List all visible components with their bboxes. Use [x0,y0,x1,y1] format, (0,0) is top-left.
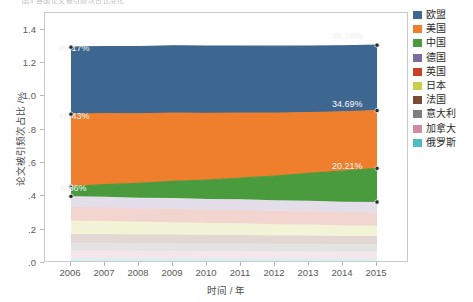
y-axis-tick-label: .2 [28,223,36,234]
legend-item-label: 法国 [426,95,446,105]
x-axis-tick-label: 2009 [161,267,182,278]
area-band-加拿大 [71,250,377,258]
x-axis-tick-label: 2006 [59,267,80,278]
data-point-marker [375,108,379,112]
x-axis-tick-label: 2012 [263,267,284,278]
plot-area: 40.17%39.18%43.43%34.69%5.86%20.21% [44,12,408,262]
legend-item-label: 俄罗斯 [426,138,456,148]
legend-swatch-icon [413,11,422,19]
y-axis-tick-label: .8 [28,123,36,134]
legend-item-label: 欧盟 [426,10,446,20]
legend-swatch-icon [413,25,422,33]
data-point-marker [375,43,379,47]
data-point-marker [375,200,379,204]
data-point-marker [69,194,73,198]
y-axis-tick-label: .0 [28,257,36,268]
stacked-area-series [45,13,407,261]
data-point-marker [375,166,379,170]
x-axis-tick-mark [342,262,343,266]
x-axis-tick-label: 2007 [93,267,114,278]
x-axis-tick-mark [206,262,207,266]
y-axis-tick-label: .6 [28,157,36,168]
legend-item-日本[interactable]: 日本 [413,79,473,93]
x-axis-tick-label: 2008 [127,267,148,278]
x-axis-tick-mark [240,262,241,266]
legend-item-label: 日本 [426,81,446,91]
y-axis-tick-label: .4 [28,190,36,201]
legend-swatch-icon [413,54,422,62]
x-axis-tick-mark [138,262,139,266]
data-point-marker [69,112,73,116]
legend-item-德国[interactable]: 德国 [413,51,473,65]
data-point-marker [69,184,73,188]
legend-item-label: 加拿大 [426,124,456,134]
legend-item-label: 美国 [426,24,446,34]
x-axis-tick-mark [274,262,275,266]
y-axis-title: 论文被引频次占比 /% [13,64,27,214]
legend-item-label: 意大利 [426,109,456,119]
legend-swatch-icon [413,110,422,118]
x-axis-tick-label: 2010 [195,267,216,278]
x-axis-tick-label: 2011 [230,267,250,278]
legend-item-欧盟[interactable]: 欧盟 [413,8,473,22]
legend-swatch-icon [413,68,422,76]
legend-item-法国[interactable]: 法国 [413,93,473,107]
legend-swatch-icon [413,96,422,104]
x-axis-tick-mark [70,262,71,266]
figure-caption: 图3 各国论文被引频次占比变化 [22,0,125,5]
legend-swatch-icon [413,39,422,47]
legend-item-英国[interactable]: 英国 [413,65,473,79]
y-axis: .0.2.4.6.81.01.21.4 论文被引频次占比 /% [0,12,44,262]
plot-inner: 40.17%39.18%43.43%34.69%5.86%20.21% [45,13,407,261]
x-axis-tick-mark [104,262,105,266]
x-axis-title: 时间 / 年 [44,283,408,297]
legend-item-label: 德国 [426,53,446,63]
legend-item-加拿大[interactable]: 加拿大 [413,122,473,136]
legend-item-俄罗斯[interactable]: 俄罗斯 [413,136,473,150]
legend-swatch-icon [413,82,422,90]
legend-item-美国[interactable]: 美国 [413,22,473,36]
legend-swatch-icon [413,125,422,133]
x-axis: 2006200720082009201020112012201320142015 [44,262,408,282]
data-point-marker [69,45,73,49]
x-axis-tick-label: 2015 [365,267,386,278]
x-axis-tick-label: 2013 [297,267,318,278]
x-axis-tick-mark [308,262,309,266]
chart-root: 图3 各国论文被引频次占比变化 .0.2.4.6.81.01.21.4 论文被引… [0,0,473,302]
x-axis-tick-label: 2014 [331,267,352,278]
legend-item-label: 中国 [426,38,446,48]
x-axis-tick-mark [376,262,377,266]
y-axis-tick-label: 1.4 [23,23,36,34]
legend: 欧盟美国中国德国英国日本法国意大利加拿大俄罗斯 [413,8,473,150]
area-band-意大利 [71,243,377,252]
area-band-欧盟 [71,45,377,114]
legend-swatch-icon [413,139,422,147]
legend-item-中国[interactable]: 中国 [413,36,473,50]
legend-item-label: 英国 [426,67,446,77]
x-axis-tick-mark [172,262,173,266]
legend-item-意大利[interactable]: 意大利 [413,107,473,121]
